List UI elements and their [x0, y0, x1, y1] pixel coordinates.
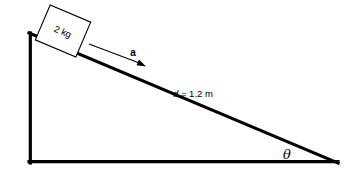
inclined-plane-diagram: 2 kg a d = 1.2 m θ [0, 0, 363, 178]
physics-diagram-figure: 2 kg a d = 1.2 m θ [0, 0, 363, 178]
angle-theta-label: θ [283, 147, 291, 162]
distance-label: d = 1.2 m [173, 88, 213, 99]
distance-value: = 1.2 m [178, 88, 213, 99]
acceleration-label: a [130, 47, 136, 58]
